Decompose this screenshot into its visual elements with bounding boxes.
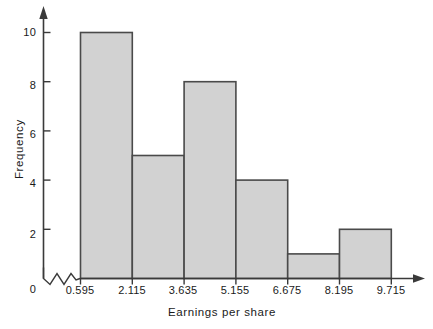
histogram-chart: 10 8 6 4 2 0 0.595 2.115 3.635 5.155 6.6… <box>0 0 433 329</box>
y-tick-label-2: 2 <box>16 229 36 240</box>
histogram-bar-6 <box>340 229 392 278</box>
y-tick-label-8: 8 <box>16 80 36 91</box>
y-tick-label-10: 10 <box>16 27 36 38</box>
y-tick-label-4: 4 <box>16 178 36 189</box>
x-tick-label-0: 0.595 <box>56 285 104 296</box>
y-tick-label-0: 0 <box>16 284 36 295</box>
y-axis-title: Frequency <box>14 119 26 179</box>
y-axis-arrow-icon <box>39 6 47 19</box>
x-axis-arrow-icon <box>413 274 425 282</box>
x-tick-label-2: 3.635 <box>159 285 207 296</box>
histogram-bar-2 <box>132 156 184 279</box>
chart-plot-area <box>0 0 433 329</box>
x-tick-label-1: 2.115 <box>108 285 156 296</box>
x-axis-title: Earnings per share <box>168 307 276 319</box>
bars-group <box>81 33 392 279</box>
histogram-bar-3 <box>184 82 236 279</box>
x-tick-label-4: 6.675 <box>263 285 311 296</box>
x-tick-label-6: 9.715 <box>367 285 415 296</box>
histogram-bar-5 <box>288 254 340 279</box>
axis-break-icon <box>44 268 81 285</box>
histogram-bar-4 <box>236 180 288 278</box>
histogram-bar-1 <box>81 33 133 279</box>
x-tick-label-5: 8.195 <box>315 285 363 296</box>
x-tick-label-3: 5.155 <box>211 285 259 296</box>
